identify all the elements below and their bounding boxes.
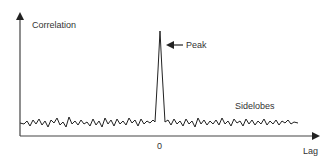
x-axis-label: Lag xyxy=(303,147,318,156)
zero-tick-label: 0 xyxy=(157,142,162,151)
sidelobes-left xyxy=(20,117,155,127)
peak-label: Peak xyxy=(186,41,207,50)
peak-line xyxy=(155,31,165,122)
sidelobes-label: Sidelobes xyxy=(235,102,275,111)
y-axis-label: Correlation xyxy=(32,21,76,30)
sidelobes-right xyxy=(165,118,298,127)
